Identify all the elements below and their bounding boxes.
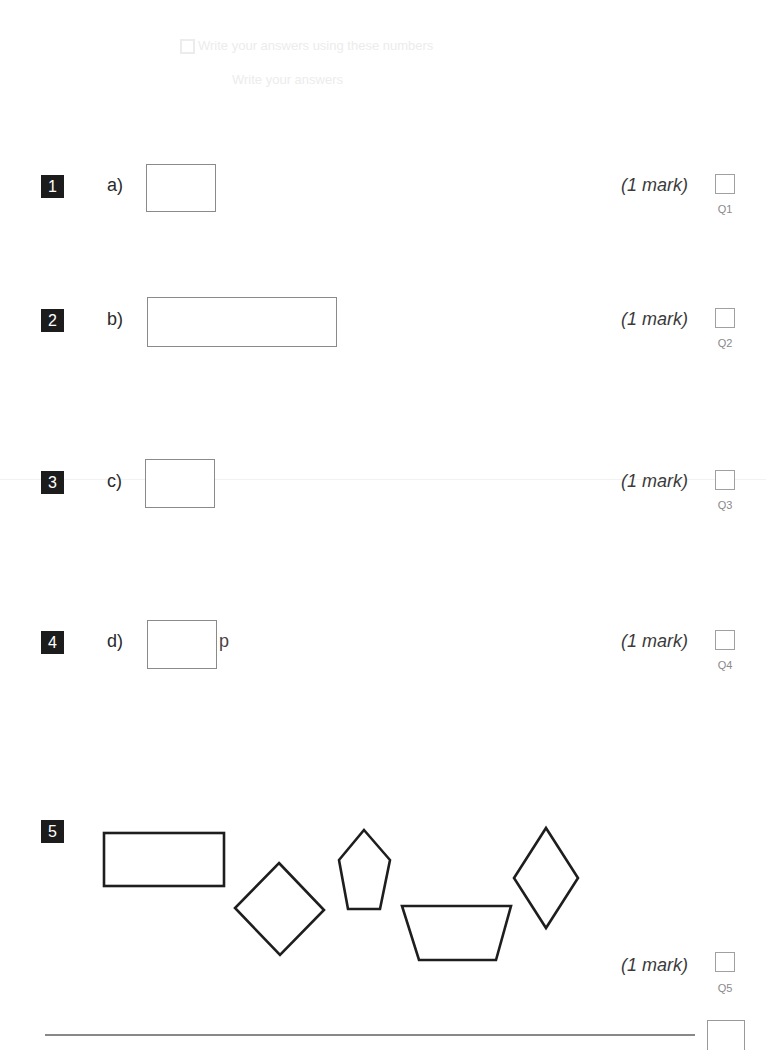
mark-allocation-q5: (1 mark) xyxy=(621,955,688,976)
marker-box-q5 xyxy=(715,952,735,972)
shape-rhombus[interactable] xyxy=(514,828,578,928)
question-ref-q5: Q5 xyxy=(712,982,738,994)
shape-pentagon[interactable] xyxy=(339,830,390,909)
shape-trapezium[interactable] xyxy=(402,906,511,960)
shape-square[interactable] xyxy=(235,863,324,955)
page-total-box xyxy=(707,1020,745,1050)
shape-rectangle[interactable] xyxy=(104,833,224,886)
footer-rule xyxy=(45,1034,695,1036)
